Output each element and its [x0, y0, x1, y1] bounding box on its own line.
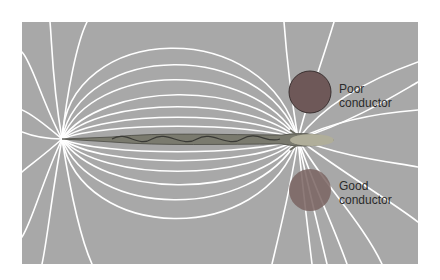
poor-conductor-label: Poor conductor: [339, 82, 392, 110]
poor-conductor-sphere: [289, 71, 331, 113]
fish-icon: [62, 130, 334, 150]
field-lines: [22, 22, 418, 264]
field-diagram: Poor conductor Good conductor: [22, 22, 418, 264]
label-line1: Poor: [339, 82, 392, 96]
label-line1: Good: [339, 179, 392, 193]
label-line2: conductor: [339, 193, 392, 207]
label-line2: conductor: [339, 96, 392, 110]
good-conductor-label: Good conductor: [339, 179, 392, 207]
good-conductor-sphere: [289, 169, 331, 211]
